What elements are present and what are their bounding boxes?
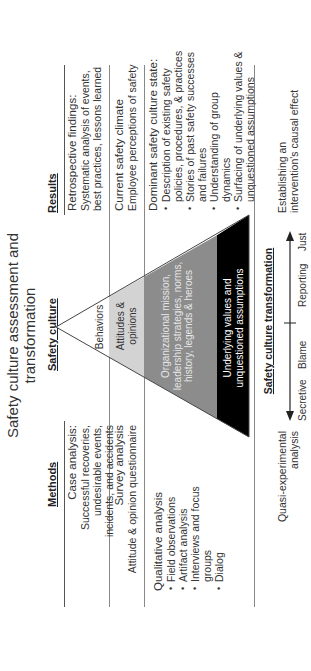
transformation-scale-arrow (0, 0, 311, 671)
causal-line-2: intervention's causal effect (288, 53, 300, 213)
arrow-right-head (286, 231, 294, 241)
scale-label-secretive: Secretive (297, 379, 309, 421)
scale-label-blame: Blame (297, 341, 309, 369)
scale-label-reporting: Reporting (297, 264, 309, 307)
safety-culture-diagram: Safety culture assessment and transforma… (0, 0, 311, 671)
causal-line-1: Establishing an (276, 53, 288, 213)
scale-label-just: Just (297, 233, 309, 251)
causal-effect-label: Establishing an intervention's causal ef… (276, 53, 300, 213)
arrow-left-head (286, 411, 294, 421)
